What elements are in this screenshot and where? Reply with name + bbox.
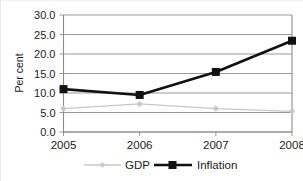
y-tick-label: 10.0 [34,87,55,99]
data-point-gdp [136,101,142,107]
legend-label-inflation: Inflation [197,159,237,171]
series-line-gdp [64,104,293,111]
data-point-inflation [212,68,220,76]
x-tickmarks [64,132,293,136]
data-point-inflation [136,91,144,99]
data-point-gdp [289,108,295,114]
legend-item-gdp: GDP [84,159,150,171]
y-tick-label: 5.0 [40,107,55,119]
series-line-inflation [64,41,293,95]
y-tick-labels: 0.05.010.015.020.025.030.0 [34,9,55,138]
data-point-inflation [60,85,68,93]
legend-marker-inflation [169,161,177,169]
x-tick-label: 2006 [127,139,153,151]
y-tick-label: 0.0 [40,126,55,138]
legend-marker-gdp [100,162,106,168]
data-point-gdp [213,105,219,111]
y-tickmarks [60,15,64,132]
data-point-inflation [288,37,296,45]
x-tick-label: 2005 [51,139,77,151]
y-tick-label: 25.0 [34,29,55,41]
y-tick-label: 30.0 [34,9,55,21]
legend-label-gdp: GDP [125,159,150,171]
line-chart: 0.05.010.015.020.025.030.0 2005200620072… [0,0,303,181]
chart-legend: GDP Inflation [84,159,237,171]
y-tick-label: 15.0 [34,68,55,80]
y-axis-title: Per cent [13,53,25,92]
chart-canvas: 0.05.010.015.020.025.030.0 2005200620072… [1,1,303,181]
x-tick-label: 2008 [279,139,303,151]
data-point-gdp [60,105,66,111]
y-tick-label: 20.0 [34,48,55,60]
series-inflation [60,37,297,99]
x-tick-labels: 2005200620072008 [51,139,303,151]
gridlines [64,15,293,132]
legend-item-inflation: Inflation [154,159,237,171]
x-tick-label: 2007 [203,139,229,151]
